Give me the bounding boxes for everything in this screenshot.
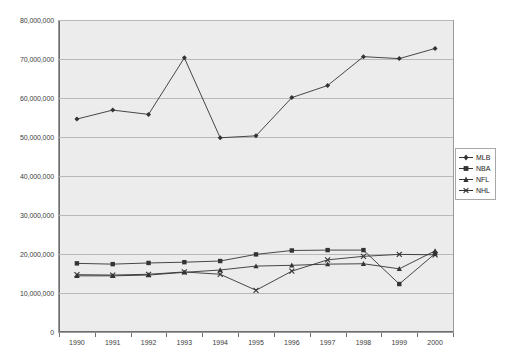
y-axis-tick-label: 60,000,000 bbox=[0, 95, 54, 102]
gridline bbox=[59, 254, 453, 255]
x-axis-tick-mark bbox=[346, 333, 347, 337]
x-axis-tick-label: 1993 bbox=[164, 339, 204, 346]
x-axis-tick-label: 2000 bbox=[415, 339, 455, 346]
gridline bbox=[59, 137, 453, 138]
legend-label-mlb: MLB bbox=[476, 152, 490, 163]
gridline bbox=[59, 293, 453, 294]
y-axis-tick-label: 10,000,000 bbox=[0, 290, 54, 297]
gridline bbox=[59, 176, 453, 177]
y-axis-tick-label: 40,000,000 bbox=[0, 173, 54, 180]
y-axis-tick-label: 70,000,000 bbox=[0, 56, 54, 63]
legend-item-nba[interactable]: NBA bbox=[458, 163, 493, 174]
plot-area bbox=[58, 20, 454, 333]
x-axis-tick-label: 1990 bbox=[57, 339, 97, 346]
legend-marker-triangle-icon bbox=[458, 174, 474, 185]
x-axis-tick-mark bbox=[417, 333, 418, 337]
x-axis-tick-mark bbox=[59, 333, 60, 337]
legend-label-nhl: NHL bbox=[476, 185, 490, 196]
gridline bbox=[59, 215, 453, 216]
gridline bbox=[59, 98, 453, 99]
x-axis-tick-label: 1995 bbox=[236, 339, 276, 346]
x-axis-tick-label: 1998 bbox=[343, 339, 383, 346]
x-axis-tick-mark bbox=[238, 333, 239, 337]
x-axis-tick-label: 1997 bbox=[308, 339, 348, 346]
gridline bbox=[59, 20, 453, 21]
legend-label-nfl: NFL bbox=[476, 174, 489, 185]
x-axis-tick-label: 1996 bbox=[272, 339, 312, 346]
y-axis-tick-label: 50,000,000 bbox=[0, 134, 54, 141]
legend-marker-diamond-icon bbox=[458, 152, 474, 163]
x-axis-tick-mark bbox=[310, 333, 311, 337]
x-axis-tick-mark bbox=[274, 333, 275, 337]
legend-marker-square-icon bbox=[458, 163, 474, 174]
x-axis-tick-label: 1992 bbox=[129, 339, 169, 346]
chart-legend: MLB NBA NFL NHL bbox=[455, 148, 496, 200]
x-axis-tick-label: 1994 bbox=[200, 339, 240, 346]
legend-item-nhl[interactable]: NHL bbox=[458, 185, 493, 196]
y-axis-tick-label: 30,000,000 bbox=[0, 212, 54, 219]
legend-marker-x-icon bbox=[458, 185, 474, 196]
y-axis-tick-label: 0 bbox=[0, 329, 54, 336]
legend-item-mlb[interactable]: MLB bbox=[458, 152, 493, 163]
y-axis-tick-label: 20,000,000 bbox=[0, 251, 54, 258]
line-chart: 010,000,00020,000,00030,000,00040,000,00… bbox=[0, 0, 508, 364]
x-axis-line bbox=[59, 331, 453, 332]
x-axis-tick-mark bbox=[453, 333, 454, 337]
x-axis-tick-label: 1999 bbox=[379, 339, 419, 346]
x-axis-tick-mark bbox=[166, 333, 167, 337]
x-axis-tick-mark bbox=[131, 333, 132, 337]
x-axis-tick-mark bbox=[202, 333, 203, 337]
legend-label-nba: NBA bbox=[476, 163, 490, 174]
gridline bbox=[59, 59, 453, 60]
legend-item-nfl[interactable]: NFL bbox=[458, 174, 493, 185]
y-axis-tick-label: 80,000,000 bbox=[0, 17, 54, 24]
x-axis-tick-mark bbox=[381, 333, 382, 337]
x-axis-tick-mark bbox=[95, 333, 96, 337]
x-axis-tick-label: 1991 bbox=[93, 339, 133, 346]
